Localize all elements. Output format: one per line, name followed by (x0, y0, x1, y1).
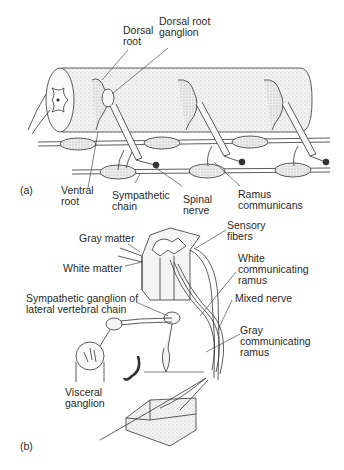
label-ventral-root: Ventral root (61, 185, 94, 207)
label-sensory-fibers: Sensory fibers (227, 220, 266, 242)
label-sympathetic-chain: Sympathetic chain (112, 190, 170, 212)
label-dorsal-root: Dorsal root (123, 25, 153, 47)
label-visceral-ganglion: Visceral ganglion (65, 387, 105, 409)
label-white-matter: White matter (63, 263, 123, 274)
spinal-cord-illustration-a (0, 0, 344, 470)
panel-a-tag: (a) (20, 185, 33, 196)
label-white-communicating-ramus: White communicating ramus (238, 253, 309, 286)
label-spinal-nerve: Spinal nerve (183, 194, 212, 216)
label-ramus-communicans: Ramus communicans (238, 189, 303, 211)
label-gray-matter: Gray matter (79, 233, 134, 244)
label-gray-communicating-ramus: Gray communicating ramus (240, 325, 311, 358)
spinal-cord-cross-section-b (76, 228, 240, 446)
panel-b-tag: (b) (20, 441, 33, 452)
label-dorsal-root-ganglion: Dorsal root ganglion (159, 16, 210, 38)
label-mixed-nerve: Mixed nerve (235, 293, 292, 304)
label-sympathetic-ganglion: Sympathetic ganglion of lateral vertebra… (26, 293, 138, 315)
